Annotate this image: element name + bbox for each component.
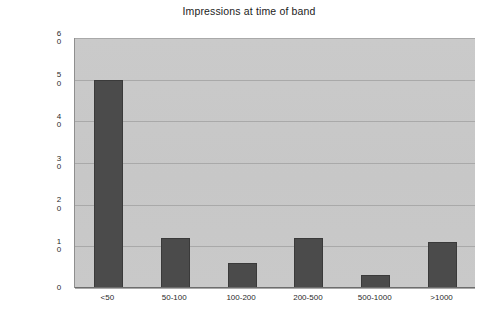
bar[interactable] bbox=[228, 263, 257, 288]
y-axis-tick-labels: 6050403020100 bbox=[44, 0, 72, 319]
bar[interactable] bbox=[294, 238, 323, 288]
y-tick-label: 60 bbox=[46, 30, 72, 47]
y-tick-digit: 0 bbox=[46, 121, 72, 130]
y-tick-digit: 0 bbox=[46, 246, 72, 255]
y-tick-digit: 0 bbox=[46, 38, 72, 47]
x-axis-line bbox=[75, 287, 475, 288]
y-tick-digit: 0 bbox=[46, 205, 72, 214]
y-tick-label: 20 bbox=[46, 196, 72, 213]
gridline bbox=[75, 80, 475, 81]
chart-title: Impressions at time of band bbox=[0, 5, 498, 17]
y-tick-digit: 0 bbox=[46, 80, 72, 89]
y-tick-label: 50 bbox=[46, 71, 72, 88]
y-tick-label: 40 bbox=[46, 113, 72, 130]
plot-area bbox=[74, 38, 475, 288]
gridline bbox=[75, 38, 475, 39]
gridline bbox=[75, 205, 475, 206]
bar[interactable] bbox=[161, 238, 190, 288]
bar-chart-figure: Impressions at time of band Cylinder ban… bbox=[0, 0, 498, 319]
x-tick-label: >1000 bbox=[402, 293, 482, 302]
gridline bbox=[75, 246, 475, 247]
y-tick-label: 10 bbox=[46, 238, 72, 255]
gridline bbox=[75, 163, 475, 164]
gridline bbox=[75, 288, 475, 289]
y-tick-label: 0 bbox=[46, 284, 72, 293]
bar[interactable] bbox=[428, 242, 457, 288]
gridline bbox=[75, 121, 475, 122]
y-tick-digit: 0 bbox=[46, 163, 72, 172]
y-tick-label: 30 bbox=[46, 155, 72, 172]
y-tick-digit: 0 bbox=[46, 284, 72, 293]
bar[interactable] bbox=[94, 80, 123, 288]
